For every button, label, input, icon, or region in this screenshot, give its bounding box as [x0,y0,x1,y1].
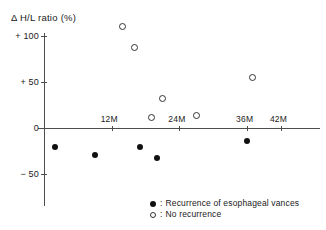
legend-label: No recurrence [166,209,222,220]
y-axis-line [44,33,45,206]
y-axis-tick [41,82,47,83]
data-point-recurrence [154,155,160,161]
y-axis-tick-label: 0 [0,123,39,133]
data-point-no-recurrence [119,23,126,30]
chart-legend: : Recurrence of esophageal vances : No r… [150,198,299,220]
data-point-no-recurrence [131,44,138,51]
legend-separator: : [160,198,163,209]
x-axis-tick-label: 12M [101,114,118,124]
y-axis-tick [41,36,47,37]
x-axis-tick-label: 24M [168,114,185,124]
filled-circle-icon [150,201,156,207]
y-axis-tick-label: + 50 [0,77,39,87]
x-axis-tick [179,126,180,131]
legend-item-no-recurrence: : No recurrence [150,209,299,220]
scatter-plot-figure: Δ H/L ratio (%) + 100+ 500− 50 12M24M36M… [0,0,326,230]
data-point-recurrence [92,152,98,158]
plot-area: + 100+ 500− 50 12M24M36M42M [0,0,326,230]
data-point-no-recurrence [159,95,166,102]
data-point-no-recurrence [148,114,155,121]
x-axis-tick-label: 36M [236,114,253,124]
legend-label: Recurrence of esophageal vances [166,198,300,209]
y-axis-tick-label: + 100 [0,31,39,41]
x-axis-tick-label: 42M [270,114,287,124]
data-point-no-recurrence [249,74,256,81]
x-axis-tick [281,126,282,131]
legend-item-recurrence: : Recurrence of esophageal vances [150,198,299,209]
data-point-recurrence [244,138,250,144]
data-point-no-recurrence [193,112,200,119]
x-axis-tick [247,126,248,131]
legend-separator: : [160,209,163,220]
data-point-recurrence [137,144,143,150]
open-circle-icon [150,212,156,218]
data-point-recurrence [52,144,58,150]
x-axis-tick [112,126,113,131]
y-axis-tick [41,174,47,175]
y-axis-tick-label: − 50 [0,169,39,179]
